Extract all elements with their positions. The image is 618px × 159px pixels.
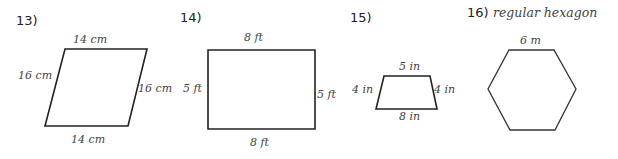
problem-16-top-label: 6 m [520, 34, 541, 47]
problem-14-bottom-label: 8 ft [250, 136, 269, 149]
problem-16-number: 16) [467, 5, 489, 20]
problem-13-right-label: 16 cm [138, 82, 172, 95]
problem-14-number: 14) [180, 10, 202, 25]
parallelogram-shape [45, 49, 147, 126]
hexagon-shape [488, 50, 576, 130]
problem-14-right-label: 5 ft [317, 88, 336, 101]
rectangle-shape [208, 50, 315, 129]
problem-13-bottom-label: 14 cm [71, 133, 105, 146]
trapezoid-shape [376, 76, 437, 109]
problem-15-right-label: 4 in [434, 83, 455, 96]
problem-16-title: regular hexagon [493, 5, 597, 20]
problem-15-top-label: 5 in [399, 60, 420, 73]
problem-15-left-label: 4 in [352, 83, 373, 96]
problem-13-number: 13) [16, 13, 38, 28]
problem-15-number: 15) [350, 10, 372, 25]
problem-14-left-label: 5 ft [183, 82, 202, 95]
problem-13-left-label: 16 cm [18, 69, 52, 82]
problem-13-top-label: 14 cm [73, 33, 107, 46]
problem-14-top-label: 8 ft [244, 31, 263, 44]
problem-15-bottom-label: 8 in [399, 110, 420, 123]
